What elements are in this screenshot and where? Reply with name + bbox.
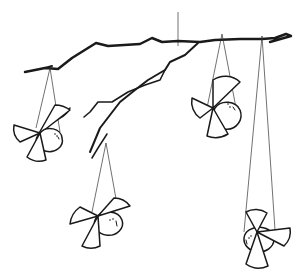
bird-left	[14, 68, 70, 161]
mobile-illustration	[0, 0, 306, 276]
bird-bottom-right	[244, 36, 290, 268]
illustration-svg	[0, 0, 306, 276]
bird-bottom-center	[70, 143, 130, 248]
tree-branch	[25, 34, 291, 158]
bird-center-right	[192, 34, 241, 138]
